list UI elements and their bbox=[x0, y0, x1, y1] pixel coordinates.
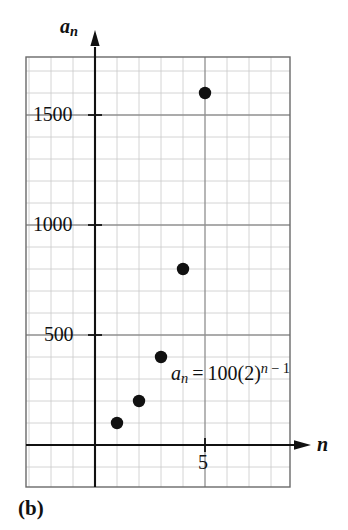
data-point bbox=[155, 351, 167, 363]
panel-label: (b) bbox=[18, 498, 44, 519]
sequence-scatter-figure: an n 1500 1000 500 5 an=100(2)n− 1 (b) bbox=[0, 0, 348, 530]
plot-canvas bbox=[0, 0, 348, 530]
equation-annotation: an=100(2)n− 1 bbox=[171, 361, 290, 385]
y-axis-label: an bbox=[60, 16, 78, 39]
y-axis-label-text: a bbox=[60, 15, 70, 37]
equation-equals: = bbox=[192, 362, 203, 384]
data-point bbox=[133, 395, 145, 407]
x-axis-label: n bbox=[317, 434, 328, 454]
data-point bbox=[111, 417, 123, 429]
x-tick-label-5: 5 bbox=[198, 452, 208, 472]
data-point bbox=[177, 263, 189, 275]
equation-base: 100(2) bbox=[207, 362, 260, 384]
y-tick-label-1500: 1500 bbox=[33, 104, 72, 124]
y-tick-label-500: 500 bbox=[44, 324, 73, 344]
y-axis-label-subscript: n bbox=[70, 23, 78, 39]
y-tick-label-1000: 1000 bbox=[33, 214, 72, 234]
equation-exponent-rest: − 1 bbox=[271, 360, 290, 376]
equation-exponent-variable: n bbox=[261, 360, 268, 376]
data-point bbox=[199, 87, 211, 99]
equation-lhs: a bbox=[171, 362, 181, 384]
equation-lhs-subscript: n bbox=[181, 370, 188, 386]
